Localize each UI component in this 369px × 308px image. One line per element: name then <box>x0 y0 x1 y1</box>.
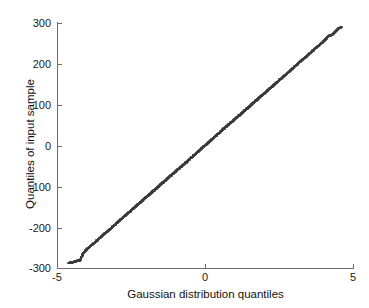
data-point <box>111 225 114 228</box>
data-point <box>169 175 172 178</box>
data-point <box>160 183 163 186</box>
data-point <box>199 148 202 151</box>
data-point <box>72 261 75 264</box>
data-point <box>170 174 173 177</box>
data-point <box>221 129 224 132</box>
data-point <box>216 133 219 136</box>
data-point <box>207 141 210 144</box>
data-point <box>213 136 216 139</box>
data-point <box>332 33 335 36</box>
data-point <box>303 57 306 60</box>
data-point <box>178 167 181 170</box>
data-point <box>73 261 76 264</box>
data-point <box>275 81 278 84</box>
data-point <box>243 109 246 112</box>
data-point <box>337 27 340 30</box>
data-point <box>77 259 80 262</box>
data-point <box>106 230 109 233</box>
data-point <box>178 167 181 170</box>
data-point <box>218 132 221 135</box>
data-point <box>297 62 300 65</box>
data-point <box>244 109 247 112</box>
data-point <box>212 137 215 140</box>
data-point <box>227 124 230 127</box>
data-point <box>159 183 162 186</box>
data-point <box>88 246 91 249</box>
data-point <box>333 31 336 34</box>
data-point <box>273 83 276 86</box>
data-point <box>276 81 279 84</box>
data-point <box>300 60 303 63</box>
data-point <box>69 261 72 264</box>
data-point <box>214 135 217 138</box>
data-point <box>298 61 301 64</box>
data-point <box>255 99 258 102</box>
data-point <box>263 92 266 95</box>
data-point <box>289 69 292 72</box>
data-point <box>276 81 279 84</box>
data-point <box>138 202 141 205</box>
data-point <box>288 70 291 73</box>
data-point <box>269 87 272 90</box>
data-point <box>293 66 296 69</box>
data-point <box>231 120 234 123</box>
data-point <box>168 175 171 178</box>
data-point <box>206 142 209 145</box>
data-point <box>151 191 154 194</box>
data-point <box>201 147 204 150</box>
data-point <box>140 200 143 203</box>
data-point <box>159 184 162 187</box>
y-tick-mark <box>58 146 62 147</box>
data-point <box>260 94 263 97</box>
data-point <box>242 110 245 113</box>
data-point <box>197 150 200 153</box>
data-point <box>322 40 325 43</box>
data-point <box>98 237 101 240</box>
data-point <box>163 180 166 183</box>
data-point <box>329 34 332 37</box>
data-point <box>281 77 284 80</box>
data-point <box>186 160 189 163</box>
data-point <box>138 202 141 205</box>
data-point <box>237 115 240 118</box>
data-point <box>264 91 267 94</box>
data-point <box>136 204 139 207</box>
data-point <box>130 209 133 212</box>
data-point <box>282 76 285 79</box>
data-point <box>261 94 264 97</box>
data-point <box>268 88 271 91</box>
data-point <box>88 246 91 249</box>
data-point <box>261 94 264 97</box>
data-point <box>290 69 293 72</box>
data-point <box>213 136 216 139</box>
data-point <box>124 214 127 217</box>
data-point <box>234 117 237 120</box>
data-point <box>130 209 133 212</box>
data-point <box>263 92 266 95</box>
data-point <box>166 177 169 180</box>
data-point <box>304 56 307 59</box>
data-point <box>244 109 247 112</box>
data-point <box>237 114 240 117</box>
data-point <box>157 185 160 188</box>
data-point <box>179 166 182 169</box>
data-point <box>127 212 130 215</box>
data-point <box>198 150 201 153</box>
data-point <box>183 163 186 166</box>
data-point <box>274 82 277 85</box>
qq-plot-figure: 300 200 100 0 -100 -200 -300 -5 0 5 Gaus… <box>0 0 369 308</box>
data-point <box>257 97 260 100</box>
data-point <box>109 228 112 231</box>
data-point <box>207 142 210 145</box>
data-point <box>301 59 304 62</box>
data-point <box>173 171 176 174</box>
data-point <box>250 103 253 106</box>
data-point <box>188 158 191 161</box>
data-point <box>195 152 198 155</box>
data-point <box>109 228 112 231</box>
data-point <box>149 192 152 195</box>
data-point <box>153 189 156 192</box>
data-point <box>264 92 267 95</box>
data-point <box>162 181 165 184</box>
data-point <box>212 137 215 140</box>
